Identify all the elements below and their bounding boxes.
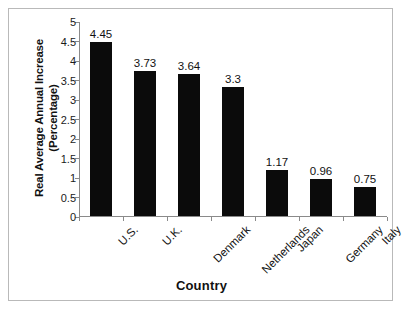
bar-value-label: 4.45 [90, 29, 112, 41]
bar-value-label: 3.73 [134, 58, 156, 70]
bar-value-label: 1.17 [266, 157, 288, 169]
bar-value-label: 3.64 [178, 61, 200, 73]
x-tick-mark [211, 217, 212, 221]
y-axis-title: Real Average Annual Increase (Percentage… [32, 18, 60, 218]
bar[interactable] [90, 42, 112, 216]
plot-area: 00.511.522.533.544.55 4.453.733.643.31.1… [79, 22, 387, 217]
bar-value-label: 0.75 [354, 174, 376, 186]
bar[interactable] [266, 170, 288, 216]
y-tick-label: 3 [70, 95, 76, 106]
bar[interactable] [134, 71, 156, 216]
x-tick-mark [343, 217, 344, 221]
y-tick-label: 2.5 [61, 114, 76, 125]
x-category-label: U.S. [117, 224, 141, 248]
y-tick-label: 4 [70, 56, 76, 67]
y-tick-label: 5 [70, 17, 76, 28]
y-tick-label: 4.5 [61, 36, 76, 47]
bar-value-label: 3.3 [225, 74, 241, 86]
bar[interactable] [310, 179, 332, 216]
y-tick-label: 3.5 [61, 75, 76, 86]
y-tick-label: 1 [70, 173, 76, 184]
bar-value-label: 0.96 [310, 166, 332, 178]
bar[interactable] [178, 74, 200, 216]
x-category-label: U.K. [161, 224, 185, 248]
y-axis-line [79, 22, 80, 217]
bar[interactable] [354, 187, 376, 216]
x-tick-mark [123, 217, 124, 221]
x-axis-line [79, 216, 387, 217]
x-tick-mark [387, 217, 388, 221]
x-category-label: Germany [344, 224, 386, 266]
y-axis-title-line-1: Real Average Annual Increase [33, 39, 45, 197]
x-tick-mark [299, 217, 300, 221]
y-tick-label: 0 [70, 212, 76, 223]
x-category-label: Italy [380, 224, 403, 247]
x-category-label: Denmark [212, 224, 253, 265]
x-tick-mark [79, 217, 80, 221]
y-tick-label: 2 [70, 134, 76, 145]
x-axis-title: Country [9, 278, 394, 293]
chart-frame: Real Average Annual Increase (Percentage… [8, 8, 393, 301]
x-tick-mark [167, 217, 168, 221]
y-axis-title-line-2: (Percentage) [46, 18, 60, 218]
x-tick-mark [255, 217, 256, 221]
y-tick-label: 1.5 [61, 153, 76, 164]
y-tick-label: 0.5 [61, 192, 76, 203]
bar[interactable] [222, 87, 244, 216]
